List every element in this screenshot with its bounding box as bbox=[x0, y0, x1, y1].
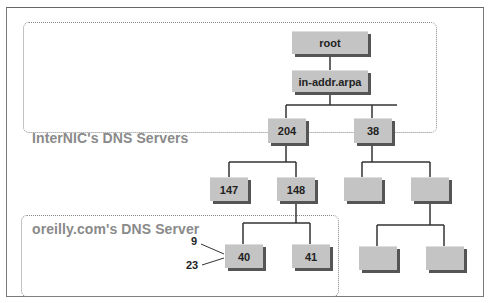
node-40: 40 bbox=[225, 244, 263, 268]
node-blank-d bbox=[426, 246, 464, 270]
annotation-9: 9 bbox=[191, 235, 197, 247]
node-root: root bbox=[292, 31, 368, 54]
node-root-label: root bbox=[292, 37, 368, 49]
node-204-label: 204 bbox=[268, 125, 306, 137]
node-in-addr-arpa-label: in-addr.arpa bbox=[292, 76, 368, 88]
node-40-label: 40 bbox=[225, 251, 263, 263]
node-blank-a bbox=[344, 177, 382, 201]
node-147-label: 147 bbox=[210, 184, 248, 196]
node-38: 38 bbox=[354, 118, 392, 143]
node-blank-c bbox=[359, 246, 397, 270]
annotation-23: 23 bbox=[186, 259, 198, 271]
node-148: 148 bbox=[277, 177, 315, 201]
node-148-label: 148 bbox=[277, 184, 315, 196]
node-41-label: 41 bbox=[292, 251, 330, 263]
node-in-addr-arpa: in-addr.arpa bbox=[292, 70, 368, 92]
node-147: 147 bbox=[210, 177, 248, 201]
node-41: 41 bbox=[292, 244, 330, 268]
node-38-label: 38 bbox=[354, 125, 392, 137]
node-204: 204 bbox=[268, 118, 306, 143]
node-blank-b bbox=[411, 177, 449, 201]
